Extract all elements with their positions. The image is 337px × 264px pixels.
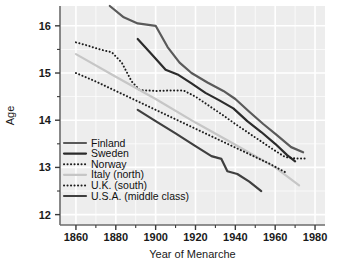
y-tick-label: 12 xyxy=(39,209,51,221)
y-tick-label: 14 xyxy=(39,114,52,126)
x-tick-label: 1960 xyxy=(263,231,287,243)
x-tick-label: 1940 xyxy=(223,231,247,243)
y-tick-label: 16 xyxy=(39,20,51,32)
x-axis-title: Year of Menarche xyxy=(149,248,235,260)
legend-label: U.S.A. (middle class) xyxy=(91,190,189,202)
x-tick-label: 1900 xyxy=(143,231,167,243)
menarche-age-line-chart: 18601880190019201940196019801213141516 F… xyxy=(0,0,337,264)
chart-container: 18601880190019201940196019801213141516 F… xyxy=(0,0,337,264)
y-tick-label: 15 xyxy=(39,67,51,79)
x-tick-label: 1980 xyxy=(303,231,327,243)
x-tick-label: 1860 xyxy=(64,231,88,243)
x-tick-label: 1880 xyxy=(104,231,128,243)
y-axis-title: Age xyxy=(4,106,16,126)
y-tick-label: 13 xyxy=(39,161,51,173)
x-tick-label: 1920 xyxy=(183,231,207,243)
